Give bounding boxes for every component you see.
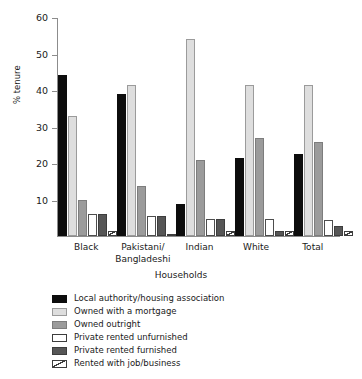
- bar[interactable]: [78, 200, 87, 237]
- bar[interactable]: [196, 160, 205, 236]
- x-axis-line: [57, 236, 340, 237]
- bar[interactable]: [275, 231, 284, 236]
- bar[interactable]: [226, 231, 235, 236]
- bar-group: [176, 18, 235, 236]
- x-axis-tick-label-line1: Pakistani/: [115, 241, 172, 253]
- y-axis-tick: 40: [52, 91, 57, 92]
- y-axis-tick-label: 30: [36, 121, 48, 134]
- x-axis-tick-label: White: [228, 241, 285, 265]
- y-axis-tick: 30: [52, 128, 57, 129]
- x-axis-tick-label: Pakistani/Bangladeshi: [115, 241, 172, 265]
- legend-item[interactable]: Local authority/housing association: [52, 292, 332, 305]
- y-axis-tick-label: 20: [36, 157, 48, 170]
- bar[interactable]: [206, 219, 215, 236]
- white-swatch: [52, 334, 67, 342]
- legend-item[interactable]: Owned outright: [52, 318, 332, 331]
- bar-group: [235, 18, 294, 236]
- medium-gray-swatch: [52, 321, 67, 329]
- hatched-swatch: [52, 360, 67, 368]
- bar[interactable]: [108, 231, 117, 236]
- legend-item-label: Rented with job/business: [74, 358, 180, 369]
- legend-item[interactable]: Rented with job/business: [52, 357, 332, 370]
- bar[interactable]: [334, 226, 343, 236]
- bar[interactable]: [167, 234, 176, 236]
- bar[interactable]: [294, 154, 303, 236]
- legend-item[interactable]: Owned with a mortgage: [52, 305, 332, 318]
- bar[interactable]: [127, 85, 136, 236]
- bar[interactable]: [314, 142, 323, 236]
- legend-item[interactable]: Private rented unfurnished: [52, 331, 332, 344]
- bar[interactable]: [157, 216, 166, 236]
- x-axis-tick-label-line1: White: [228, 241, 285, 253]
- x-axis-tick-label: Total: [284, 241, 341, 265]
- bar-group: [58, 18, 117, 236]
- bar-group: [294, 18, 353, 236]
- bars-layer: [58, 18, 340, 236]
- bar[interactable]: [324, 220, 333, 236]
- chart-legend: Local authority/housing associationOwned…: [52, 292, 332, 370]
- bar[interactable]: [176, 204, 185, 236]
- y-axis-tick: 20: [52, 164, 57, 165]
- x-axis-tick-label-line1: Black: [58, 241, 115, 253]
- plot-area: 102030405060: [57, 18, 340, 237]
- y-axis-tick-label: 50: [36, 48, 48, 61]
- legend-item[interactable]: Private rented furnished: [52, 344, 332, 357]
- x-axis-tick-label-line1: Indian: [171, 241, 228, 253]
- bar[interactable]: [58, 75, 67, 236]
- legend-item-label: Private rented furnished: [74, 345, 177, 356]
- legend-item-label: Local authority/housing association: [74, 293, 224, 304]
- bar-chart-figure: % tenure 102030405060 BlackPakistani/Ban…: [0, 0, 362, 379]
- solid-black-swatch: [52, 295, 67, 303]
- legend-item-label: Owned outright: [74, 319, 140, 330]
- dark-gray-swatch: [52, 347, 67, 355]
- x-axis-tick-labels: BlackPakistani/BangladeshiIndianWhiteTot…: [58, 241, 341, 265]
- bar[interactable]: [117, 94, 126, 236]
- x-axis-tick-label: Indian: [171, 241, 228, 265]
- bar[interactable]: [344, 231, 353, 236]
- bar[interactable]: [98, 214, 107, 236]
- x-axis-title: Households: [0, 270, 362, 280]
- x-axis-tick-label-line2: Bangladeshi: [115, 253, 172, 265]
- y-axis-tick: 60: [52, 18, 57, 19]
- bar[interactable]: [147, 216, 156, 236]
- legend-item-label: Owned with a mortgage: [74, 306, 177, 317]
- bar[interactable]: [186, 39, 195, 236]
- x-axis-tick-label-line1: Total: [284, 241, 341, 253]
- y-axis-tick: 10: [52, 201, 57, 202]
- bar[interactable]: [235, 158, 244, 236]
- bar[interactable]: [255, 138, 264, 236]
- x-axis-tick-label: Black: [58, 241, 115, 265]
- bar-group: [117, 18, 176, 236]
- bar[interactable]: [245, 85, 254, 236]
- y-axis-title: % tenure: [12, 65, 22, 104]
- bar[interactable]: [68, 116, 77, 236]
- bar[interactable]: [216, 219, 225, 236]
- legend-item-label: Private rented unfurnished: [74, 332, 188, 343]
- bar[interactable]: [285, 231, 294, 236]
- bar[interactable]: [265, 219, 274, 236]
- bar[interactable]: [137, 186, 146, 236]
- y-axis-tick: 50: [52, 55, 57, 56]
- y-axis-tick-label: 40: [36, 84, 48, 97]
- y-axis-tick-label: 10: [36, 194, 48, 207]
- bar[interactable]: [304, 85, 313, 236]
- light-gray-swatch: [52, 308, 67, 316]
- y-axis-tick-label: 60: [36, 11, 48, 24]
- bar[interactable]: [88, 214, 97, 236]
